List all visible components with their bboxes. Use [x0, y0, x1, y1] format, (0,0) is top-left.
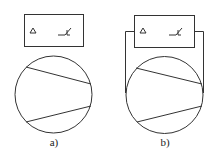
- wire-left-b: [126, 32, 135, 94]
- delta-symbol-icon: [30, 28, 36, 33]
- protector-box-b: [135, 16, 195, 48]
- diagram-canvas: [0, 0, 214, 159]
- thermal-switch-icon: [169, 28, 182, 35]
- panel-a: [15, 15, 92, 134]
- panel-b: [126, 16, 204, 134]
- delta-symbol-icon: [140, 28, 146, 33]
- chord-upper-b: [136, 68, 202, 84]
- chord-lower-a: [26, 106, 91, 122]
- panel-label-b: b): [160, 136, 169, 148]
- protector-box-a: [25, 15, 84, 47]
- thermal-switch-icon: [58, 28, 71, 35]
- chord-lower-b: [137, 106, 202, 122]
- panel-label-a: a): [50, 136, 59, 148]
- chord-upper-a: [26, 67, 91, 84]
